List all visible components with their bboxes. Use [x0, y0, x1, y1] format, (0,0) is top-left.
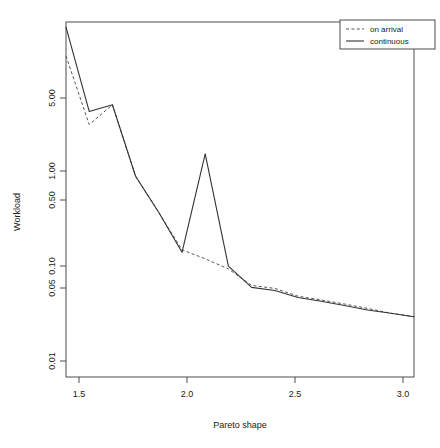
workload-vs-pareto-shape-chart: 5.00 1.00 0.50 0.10 0.05 0.01	[0, 0, 440, 448]
y-tick-label: 0.01	[47, 352, 57, 370]
y-tick-label: 1.00	[47, 162, 57, 180]
y-tick-label: 0.05	[47, 279, 57, 297]
x-tick-label: 2.0	[181, 389, 194, 399]
x-axis-title: Pareto shape	[213, 420, 267, 430]
legend-label-on-arrival: on arrival	[370, 25, 403, 34]
y-tick-label: 0.10	[47, 257, 57, 275]
y-tick-label: 0.50	[47, 191, 57, 209]
legend-label-continuous: continuous	[370, 37, 409, 46]
y-tick-label: 5.00	[47, 89, 57, 107]
x-tick-label: 1.5	[73, 389, 86, 399]
y-axis-title: Workload	[12, 193, 22, 231]
chart-container: 5.00 1.00 0.50 0.10 0.05 0.01	[0, 0, 440, 448]
x-tick-label: 2.5	[289, 389, 302, 399]
chart-legend: on arrival continuous	[340, 20, 435, 49]
x-tick-label: 3.0	[397, 389, 410, 399]
